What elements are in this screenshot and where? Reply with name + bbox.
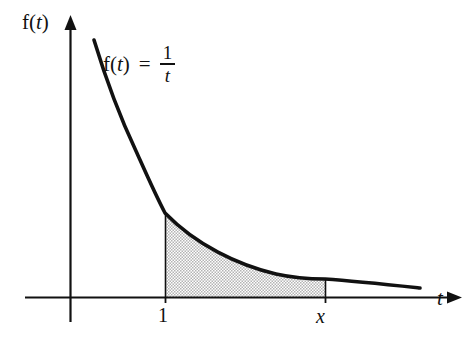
equation-left-side: f(t) [103, 54, 130, 75]
shaded-area-fill [160, 205, 332, 305]
figure-container: f(t) t 1 x f(t) = 1 t [0, 0, 462, 364]
fraction-denominator: t [162, 65, 173, 85]
fraction-numerator: 1 [160, 43, 176, 63]
tick-label-upper-limit: x [316, 306, 325, 326]
arrow-up-icon [65, 15, 77, 30]
tick-label-lower-limit: 1 [158, 305, 168, 325]
graph-canvas [0, 0, 462, 364]
equals-sign: = [139, 54, 151, 75]
x-axis-label: t [437, 288, 443, 309]
arrow-right-icon [447, 292, 462, 304]
function-equation-label: f(t) = 1 t [103, 44, 175, 86]
y-axis-label: f(t) [22, 12, 49, 33]
shaded-area-region [160, 205, 332, 305]
fraction-one-over-t: 1 t [160, 43, 176, 85]
